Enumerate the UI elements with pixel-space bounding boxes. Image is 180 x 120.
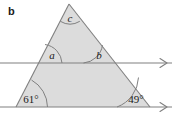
angle-a-label: a — [49, 49, 55, 61]
angle-49-label: 49° — [128, 93, 143, 105]
part-label: b — [8, 5, 15, 17]
angle-61-label: 61° — [23, 93, 38, 105]
triangle-shaded-region — [16, 4, 150, 107]
angle-c-label: c — [68, 12, 73, 24]
geometry-diagram: b c a b 61° 49° — [0, 0, 180, 120]
geometry-figure: b c a b 61° 49° — [0, 0, 180, 120]
angle-b-label: b — [96, 49, 102, 61]
